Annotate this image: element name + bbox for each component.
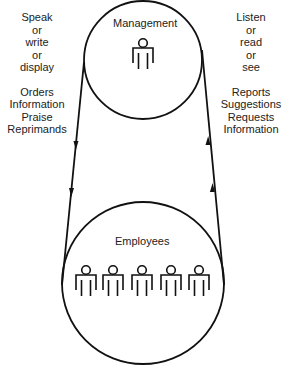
mode-write: write [0, 36, 74, 49]
employee-person-icon [189, 266, 209, 296]
downward-channel-text: Speak or write or display Orders Informa… [0, 11, 74, 136]
mode-see: see [216, 61, 286, 74]
mode-or: or [216, 49, 286, 62]
down-arrow-icon [69, 188, 74, 197]
content-praise: Praise [0, 111, 74, 124]
mode-display: display [0, 61, 74, 74]
mode-speak: Speak [0, 11, 74, 24]
mode-listen: Listen [216, 11, 286, 24]
employee-person-icon [161, 266, 181, 296]
employees-label: Employees [115, 235, 169, 247]
manager-person-icon [133, 39, 153, 69]
employee-person-icon [103, 266, 123, 296]
content-suggestions: Suggestions [216, 98, 286, 111]
mode-or: or [0, 24, 74, 37]
employee-person-icon [76, 266, 96, 296]
management-label: Management [113, 17, 177, 29]
content-requests: Requests [216, 111, 286, 124]
content-orders: Orders [0, 86, 74, 99]
content-reprimands: Reprimands [0, 123, 74, 136]
down-arrow-icon [74, 141, 79, 150]
mode-read: read [216, 36, 286, 49]
upward-channel-text: Listen or read or see Reports Suggestion… [216, 11, 286, 136]
mode-or: or [216, 24, 286, 37]
employees-circle [62, 202, 224, 364]
employee-person-icon [132, 266, 152, 296]
mode-or: or [0, 49, 74, 62]
content-information: Information [216, 123, 286, 136]
content-reports: Reports [216, 86, 286, 99]
content-information: Information [0, 98, 74, 111]
